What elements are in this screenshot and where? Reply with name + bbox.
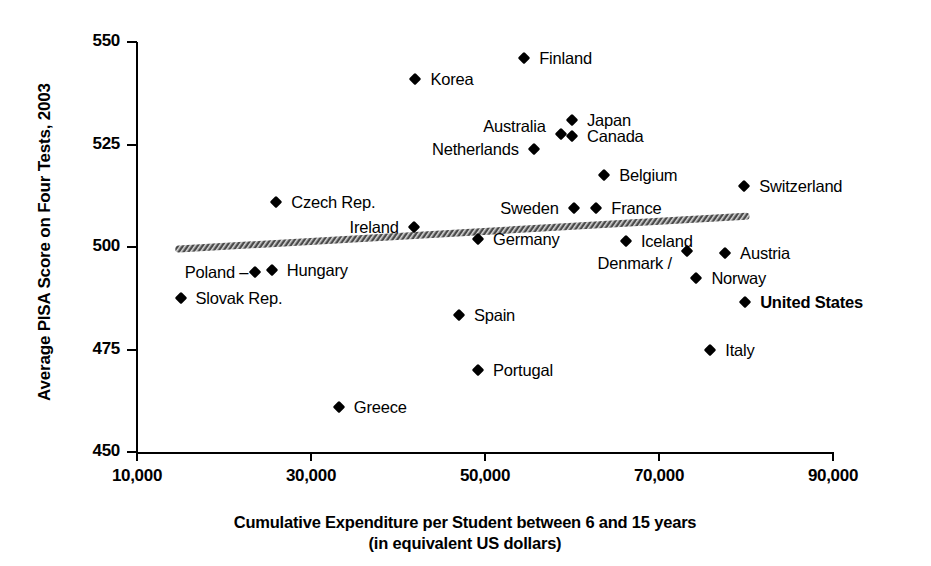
- data-point-marker: [453, 308, 466, 321]
- data-point-marker: [590, 202, 603, 215]
- data-point-label: Finland: [539, 50, 592, 67]
- data-point-label: Netherlands: [432, 140, 519, 157]
- data-point-marker: [690, 271, 703, 284]
- data-point-label: Denmark /: [598, 255, 672, 272]
- data-point-label: Belgium: [619, 167, 677, 184]
- data-point-label: Spain: [474, 306, 515, 323]
- data-point-label: Italy: [725, 341, 754, 358]
- data-point-marker: [704, 343, 717, 356]
- data-point-marker: [472, 364, 485, 377]
- data-point-marker: [620, 234, 633, 247]
- data-point-label: Switzerland: [759, 177, 842, 194]
- data-point-marker: [719, 247, 732, 260]
- data-point-label: Greece: [354, 399, 407, 416]
- data-point-marker: [265, 263, 278, 276]
- data-point-marker: [566, 114, 579, 127]
- data-point-label: Australia: [483, 118, 545, 135]
- data-point-marker: [409, 73, 422, 86]
- data-point-label: Poland –: [185, 263, 249, 280]
- data-point-label: Korea: [430, 71, 473, 88]
- data-point-label: Slovak Rep.: [196, 290, 283, 307]
- data-point-label: Hungary: [287, 261, 348, 278]
- data-point-marker: [407, 220, 420, 233]
- data-point-marker: [566, 130, 579, 143]
- data-point-label: United States: [760, 294, 863, 311]
- data-point-marker: [174, 292, 187, 305]
- data-point-marker: [739, 296, 752, 309]
- data-point-label: France: [611, 200, 661, 217]
- data-point-label: Czech Rep.: [291, 194, 375, 211]
- data-point-marker: [554, 128, 567, 141]
- data-point-marker: [738, 179, 751, 192]
- data-point-marker: [567, 202, 580, 215]
- data-point-marker: [527, 142, 540, 155]
- data-point-marker: [518, 52, 531, 65]
- data-point-marker: [270, 196, 283, 209]
- data-point-label: Japan: [587, 112, 631, 129]
- data-point-marker: [332, 401, 345, 414]
- data-point-label: Sweden: [500, 200, 558, 217]
- data-point-label: Norway: [711, 270, 766, 287]
- scatter-chart: Average PISA Score on Four Tests, 2003 C…: [0, 0, 931, 566]
- data-point-marker: [249, 265, 262, 278]
- data-point-label: Portugal: [493, 362, 553, 379]
- data-point-label: Austria: [740, 245, 790, 262]
- data-point-label: Canada: [587, 128, 644, 145]
- plot-area: FinlandKoreaJapanCanadaAustraliaNetherla…: [0, 0, 931, 566]
- data-point-marker: [598, 169, 611, 182]
- data-point-label: Ireland: [350, 218, 399, 235]
- data-point-label: Germany: [493, 231, 559, 248]
- data-point-marker: [472, 232, 485, 245]
